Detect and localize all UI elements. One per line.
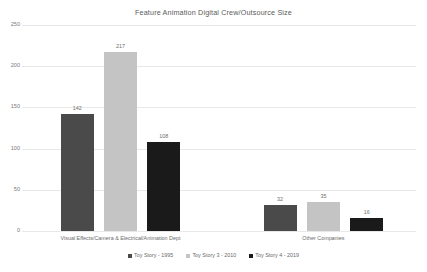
bar-slot: 142 [61, 25, 94, 231]
chart-title: Feature Animation Digital Crew/Outsource… [0, 8, 427, 17]
bar[interactable] [147, 142, 180, 231]
legend-label: Toy Story - 1995 [134, 253, 173, 258]
y-axis-tick-label: 0 [0, 228, 20, 234]
bar-value-label: 217 [100, 44, 140, 49]
legend-item[interactable]: Toy Story 4 - 2019 [249, 253, 299, 258]
y-axis-tick-label: 50 [0, 187, 20, 193]
y-axis-tick-label: 100 [0, 146, 20, 152]
y-axis-tick-label: 200 [0, 63, 20, 69]
bar[interactable] [350, 218, 383, 231]
bar[interactable] [264, 205, 297, 231]
x-axis-category-label: Visual Effects/Camera & Electrical/Anima… [55, 236, 185, 241]
legend-swatch-icon [249, 254, 253, 258]
bar-slot: 217 [104, 25, 137, 231]
y-axis: 050100150200250 [0, 25, 20, 231]
bar-slot: 108 [147, 25, 180, 231]
chart-container: Feature Animation Digital Crew/Outsource… [0, 0, 427, 272]
bar-group: 142217108 [55, 25, 185, 231]
y-axis-tick-label: 150 [0, 104, 20, 110]
chart-legend: Toy Story - 1995Toy Story 3 - 2010Toy St… [0, 253, 427, 258]
gridline [22, 231, 416, 232]
bar-value-label: 108 [144, 134, 184, 139]
bar[interactable] [104, 52, 137, 231]
bar-value-label: 16 [347, 210, 387, 215]
y-axis-tick-label: 250 [0, 22, 20, 28]
legend-swatch-icon [128, 254, 132, 258]
plot-area: 142217108323516 [22, 25, 416, 231]
bar[interactable] [61, 114, 94, 231]
legend-item[interactable]: Toy Story 3 - 2010 [186, 253, 236, 258]
bar-group: 323516 [258, 25, 388, 231]
bar-value-label: 32 [260, 197, 300, 202]
bar-slot: 35 [307, 25, 340, 231]
bar-slot: 16 [350, 25, 383, 231]
bar-value-label: 35 [303, 194, 343, 199]
bar-slot: 32 [264, 25, 297, 231]
legend-label: Toy Story 3 - 2010 [192, 253, 236, 258]
legend-swatch-icon [186, 254, 190, 258]
bar-value-label: 142 [57, 106, 97, 111]
legend-label: Toy Story 4 - 2019 [255, 253, 299, 258]
legend-item[interactable]: Toy Story - 1995 [128, 253, 173, 258]
x-axis-category-label: Other Companies [258, 236, 388, 241]
bar[interactable] [307, 202, 340, 231]
